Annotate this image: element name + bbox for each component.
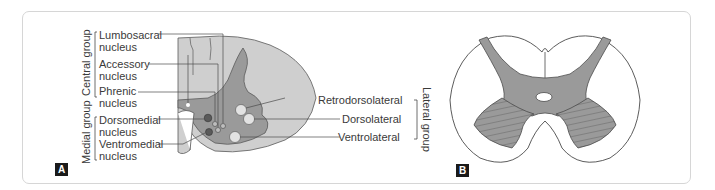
panel-a-tag: A [55, 163, 68, 176]
phrenic-label-2: nucleus [99, 97, 137, 109]
phrenic-label-1: Phrenic [99, 85, 137, 97]
dorsolateral-nucleus-dot [244, 114, 255, 125]
phrenic-nucleus-dot [213, 122, 218, 127]
dorsolateral-label: Dorsolateral [342, 113, 401, 125]
panel-b-tag: B [456, 164, 469, 177]
retrodorsolateral-label: Retrodorsolateral [318, 94, 402, 106]
lumbosacral-label-2: nucleus [99, 41, 137, 53]
accessory-label-2: nucleus [99, 70, 137, 82]
retrodorsolateral-nucleus-dot [236, 105, 247, 116]
accessory-label-1: Accessory [99, 58, 150, 70]
dorsomedial-nucleus-dot [204, 114, 212, 122]
dorsomedial-label-2: nucleus [99, 126, 137, 138]
ventromedial-nucleus-dot [206, 129, 213, 136]
lateral-group-label: Lateral group [421, 87, 433, 152]
panel-b-cross-section [450, 36, 640, 162]
medial-group-label: Medial group [80, 100, 92, 164]
lumbosacral-label-1: Lumbosacral [99, 29, 162, 41]
dorsomedial-label-1: Dorsomedial [99, 114, 161, 126]
diagram-canvas: Central group Medial group Lateral group… [0, 0, 715, 190]
ventromedial-label-1: Ventromedial [99, 138, 163, 150]
accessory-nucleus-dot [216, 128, 221, 133]
ventrolateral-nucleus-dot [230, 132, 241, 143]
central-group-label: Central group [80, 29, 92, 96]
ventromedial-label-2: nucleus [99, 150, 137, 162]
lumbosacral-nucleus-dot [221, 124, 226, 129]
ventrolateral-label: Ventrolateral [338, 131, 400, 143]
